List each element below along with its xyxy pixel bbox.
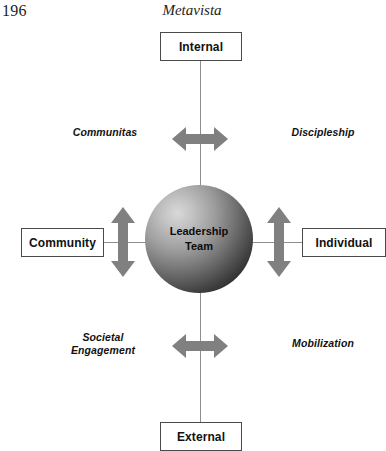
- node-external[interactable]: External: [160, 422, 242, 451]
- node-individual-label: Individual: [315, 236, 372, 250]
- node-community[interactable]: Community: [21, 228, 104, 257]
- caption-societal-line2: Engagement: [48, 344, 158, 357]
- leadership-team-sphere[interactable]: Leadership Team: [145, 185, 253, 293]
- node-community-label: Community: [29, 236, 96, 250]
- vertical-double-arrow-icon-right: [266, 207, 292, 277]
- connector-line-internal: [200, 61, 201, 186]
- caption-societal-engagement: Societal Engagement: [48, 331, 158, 357]
- caption-communitas: Communitas: [55, 126, 155, 139]
- node-internal[interactable]: Internal: [160, 32, 242, 61]
- node-individual[interactable]: Individual: [302, 228, 386, 257]
- caption-discipleship: Discipleship: [268, 126, 378, 139]
- vertical-double-arrow-icon-left: [110, 207, 136, 277]
- horizontal-double-arrow-icon-bottom: [172, 333, 228, 359]
- horizontal-double-arrow-icon-top: [172, 126, 228, 152]
- caption-mobilization: Mobilization: [268, 337, 378, 350]
- caption-societal-line1: Societal: [48, 331, 158, 344]
- sphere-label-line2: Team: [185, 239, 213, 254]
- sphere-label-line1: Leadership: [170, 224, 229, 239]
- node-external-label: External: [177, 430, 225, 444]
- node-internal-label: Internal: [179, 40, 223, 54]
